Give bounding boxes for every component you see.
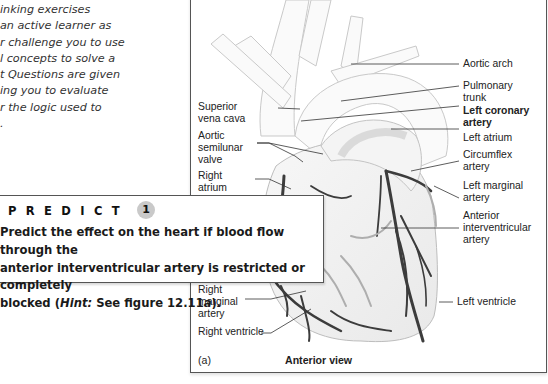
label-line: Aortic arch [463,58,513,70]
intro-line: t Questions are given [0,67,186,83]
intro-line: r challenge you to use [0,35,186,51]
label-line: vena cava [198,113,245,125]
label-line: Right ventricle [198,326,264,338]
text-fragment: ). [212,296,222,310]
intro-line: ing you to evaluate [0,83,186,99]
predict-heading: PREDICT [8,204,129,218]
figure-reference: See figure 12.11 [92,296,204,310]
figure-reference-letter: a [204,296,212,310]
predict-line: Predict the effect on the heart if blood… [0,224,322,260]
label-left-coronary-artery: Left coronary artery [463,105,529,129]
label-line: Left coronary [463,105,529,117]
label-anterior-interventricular-artery: Anterior interventricular artery [463,210,531,247]
label-line: Left marginal [463,180,523,192]
predict-box: PREDICT 1 Predict the effect on the hear… [0,195,324,283]
label-line: valve [198,154,243,166]
panel-letter: (a) [198,354,211,366]
label-line: Right [198,170,227,182]
label-line: Aortic [198,130,243,142]
label-left-atrium: Left atrium [463,132,512,144]
label-line: trunk [463,92,513,104]
predict-line: anterior interventricular artery is rest… [0,260,322,296]
intro-paragraph: inking exercises an active learner as r … [0,2,186,132]
label-line: Anterior [463,210,531,222]
hint-label: Hint: [60,296,92,310]
label-right-ventricle: Right ventricle [198,326,264,338]
label-line: interventricular [463,222,531,234]
label-line: artery [463,192,523,204]
label-line: Pulmonary [463,80,513,92]
label-left-ventricle: Left ventricle [457,296,516,308]
intro-line: l concepts to solve a [0,51,186,67]
label-circumflex-artery: Circumflex artery [463,149,512,173]
label-line: semilunar [198,142,243,154]
intro-line: an active learner as [0,18,186,34]
label-line: Superior [198,101,245,113]
text-fragment: blocked ( [0,296,60,310]
figure-caption: Anterior view [285,354,352,366]
predict-line: blocked (Hint: See figure 12.11a). [0,295,322,313]
label-aortic-arch: Aortic arch [463,58,513,70]
label-line: Circumflex [463,149,512,161]
predict-question: Predict the effect on the heart if blood… [0,224,322,313]
label-line: artery [463,161,512,173]
label-pulmonary-trunk: Pulmonary trunk [463,80,513,104]
label-superior-vena-cava: Superior vena cava [198,101,245,125]
intro-line: r the logic used to [0,100,186,116]
predict-number-badge: 1 [137,201,155,219]
label-line: atrium [198,182,227,194]
intro-line: . [0,116,186,132]
label-aortic-semilunar-valve: Aortic semilunar valve [198,130,243,167]
label-line: artery [463,117,529,129]
label-line: Left atrium [463,132,512,144]
intro-line: inking exercises [0,2,186,18]
label-line: artery [463,234,531,246]
label-line: Left ventricle [457,296,516,308]
heart-figure: Superior vena cava Aortic semilunar valv… [190,0,547,373]
label-left-marginal-artery: Left marginal artery [463,180,523,204]
label-right-atrium: Right atrium [198,170,227,194]
